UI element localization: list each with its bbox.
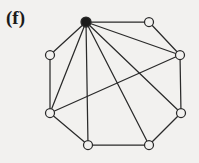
graph-edge: [50, 113, 88, 145]
graph-diagram: [0, 0, 199, 163]
graph-edge: [86, 22, 181, 113]
graph-edge: [149, 113, 181, 145]
graph-edge: [50, 22, 86, 55]
graph-node: [84, 141, 93, 150]
graph-edge: [180, 55, 181, 113]
figure-panel: (f): [0, 0, 199, 163]
graph-node: [176, 51, 185, 60]
edge-layer: [50, 22, 181, 145]
graph-node: [46, 109, 55, 118]
graph-node: [46, 51, 55, 60]
graph-node: [145, 141, 154, 150]
graph-node: [145, 18, 154, 27]
graph-node: [81, 17, 91, 27]
graph-node: [177, 109, 186, 118]
graph-edge: [86, 22, 88, 145]
